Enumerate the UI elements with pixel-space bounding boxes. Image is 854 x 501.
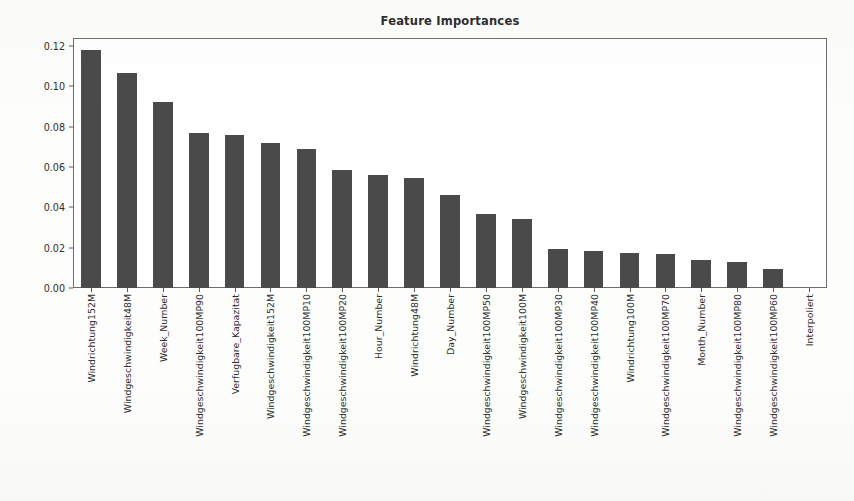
bar [225, 135, 245, 288]
x-tick-mark [773, 288, 774, 292]
bar [763, 269, 783, 288]
x-tick-label: Month_Number [696, 294, 707, 366]
x-tick-mark [630, 288, 631, 292]
x-tick-label: Day_Number [445, 294, 456, 355]
y-tick-label: 0.04 [44, 202, 65, 213]
x-tick-label: Windrichtung152M [85, 294, 96, 383]
bar [332, 170, 352, 288]
x-tick-label: Windgeschwindigkeit100MP60 [768, 294, 779, 437]
x-tick-mark [737, 288, 738, 292]
x-axis-labels: Windrichtung152MWindgeschwindigkeit48MWe… [73, 294, 827, 474]
x-tick-label: Windgeschwindigkeit100MP10 [301, 294, 312, 437]
x-tick-mark [91, 288, 92, 292]
bar [440, 195, 460, 288]
y-tick-label: 0.08 [44, 121, 65, 132]
x-tick-label: Windgeschwindigkeit48M [121, 294, 132, 413]
bar [691, 260, 711, 288]
x-tick-mark [306, 288, 307, 292]
x-tick-mark [414, 288, 415, 292]
x-tick-label: Windgeschwindigkeit100MP90 [193, 294, 204, 437]
bar [117, 73, 137, 288]
x-tick-label: Windgeschwindigkeit152M [265, 294, 276, 419]
x-tick-mark [378, 288, 379, 292]
x-tick-label: Windgeschwindigkeit100M [516, 294, 527, 419]
bar [656, 254, 676, 288]
bar [476, 214, 496, 288]
plot-area [73, 38, 827, 288]
x-tick-label: Windgeschwindigkeit100MP20 [337, 294, 348, 437]
bar [512, 219, 532, 288]
x-tick-mark [701, 288, 702, 292]
bar [261, 143, 281, 288]
x-tick-mark [809, 288, 810, 292]
x-tick-mark [270, 288, 271, 292]
bar [404, 178, 424, 288]
x-tick-label: Verfugbare_Kapazitat [229, 294, 240, 394]
x-tick-mark [486, 288, 487, 292]
x-tick-label: Windgeschwindigkeit100MP30 [552, 294, 563, 437]
y-tick-label: 0.06 [44, 162, 65, 173]
x-tick-mark [558, 288, 559, 292]
x-tick-label: Week_Number [157, 294, 168, 362]
x-tick-label: Hour_Number [373, 294, 384, 359]
x-tick-label: Windgeschwindigkeit100MP70 [660, 294, 671, 437]
x-tick-mark [450, 288, 451, 292]
y-tick-label: 0.10 [44, 81, 65, 92]
figure-canvas: Feature Importances Feature Importance S… [0, 0, 854, 501]
bar [189, 133, 209, 288]
x-tick-label: Windgeschwindigkeit100MP40 [588, 294, 599, 437]
x-tick-label: Windgeschwindigkeit100MP50 [480, 294, 491, 437]
bar [368, 175, 388, 288]
bar [81, 50, 101, 288]
bar [727, 262, 747, 288]
x-tick-mark [665, 288, 666, 292]
x-tick-mark [199, 288, 200, 292]
x-tick-label: Interpoliert [804, 294, 815, 346]
bar [297, 149, 317, 288]
x-tick-mark [163, 288, 164, 292]
bar [548, 249, 568, 288]
x-tick-mark [127, 288, 128, 292]
x-tick-mark [594, 288, 595, 292]
x-tick-label: Windrichtung48M [409, 294, 420, 377]
chart-title: Feature Importances [73, 14, 827, 28]
y-tick-label: 0.00 [44, 283, 65, 294]
y-tick-label: 0.12 [44, 41, 65, 52]
x-tick-label: Windrichtung100M [624, 294, 635, 383]
y-tick-label: 0.02 [44, 242, 65, 253]
x-tick-mark [342, 288, 343, 292]
x-tick-label: Windgeschwindigkeit100MP80 [732, 294, 743, 437]
x-tick-mark [522, 288, 523, 292]
bar [584, 251, 604, 288]
x-tick-mark [235, 288, 236, 292]
bar [153, 102, 173, 288]
bar [620, 253, 640, 288]
